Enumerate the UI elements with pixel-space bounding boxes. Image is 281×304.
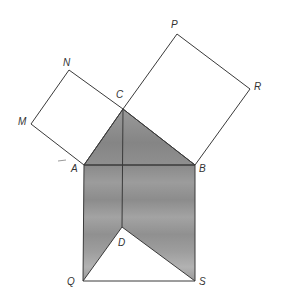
geometry-diagram: A B C D M N P R Q S bbox=[0, 0, 281, 304]
figure-svg: A B C D M N P R Q S bbox=[0, 0, 281, 304]
label-d: D bbox=[118, 237, 125, 248]
label-q: Q bbox=[67, 276, 75, 287]
shaded-triangle-abc bbox=[84, 109, 195, 165]
label-m: M bbox=[18, 116, 27, 127]
label-b: B bbox=[199, 163, 206, 174]
label-s: S bbox=[199, 276, 206, 287]
label-r: R bbox=[254, 81, 261, 92]
label-a: A bbox=[70, 163, 78, 174]
smudge-mark bbox=[58, 160, 66, 161]
label-p: P bbox=[171, 19, 178, 30]
label-n: N bbox=[63, 57, 71, 68]
shaded-lower-region bbox=[83, 165, 195, 281]
label-c: C bbox=[116, 89, 124, 100]
